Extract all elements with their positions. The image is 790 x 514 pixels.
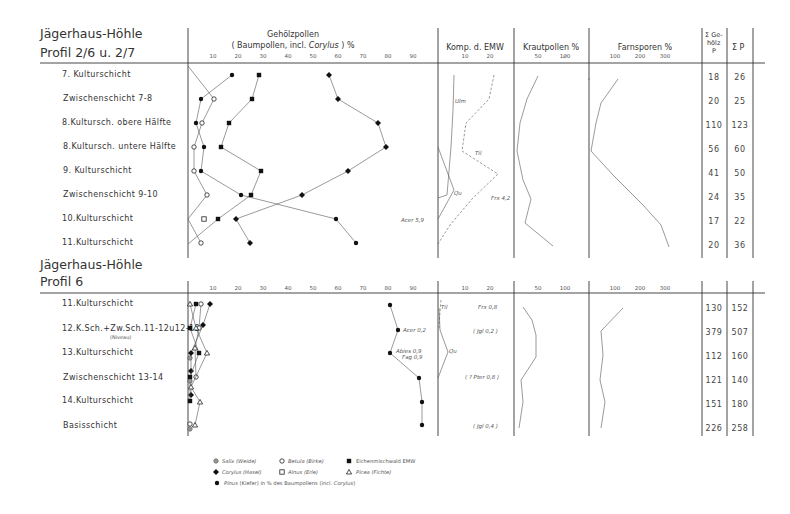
svg-text:41: 41 bbox=[708, 169, 719, 178]
section2-geholz-curves: Acer 0,2 Abies 0,9 Fag 0,9 bbox=[187, 301, 426, 431]
svg-text:200: 200 bbox=[635, 53, 646, 59]
svg-text:Eichenmischwald EMW: Eichenmischwald EMW bbox=[356, 458, 415, 464]
svg-text:10: 10 bbox=[462, 285, 469, 291]
sum-geholz-header-1: Σ Ge- bbox=[705, 31, 723, 39]
svg-text:26: 26 bbox=[734, 73, 745, 82]
svg-text:90: 90 bbox=[410, 53, 417, 59]
svg-text:Til: Til bbox=[475, 150, 482, 156]
section2-title-line2: Profil 6 bbox=[40, 274, 83, 289]
svg-text:Ulm: Ulm bbox=[455, 98, 466, 104]
svg-text:( Jgl 0,2 ): ( Jgl 0,2 ) bbox=[473, 328, 498, 335]
svg-text:20: 20 bbox=[487, 53, 494, 59]
svg-text:20: 20 bbox=[235, 285, 242, 291]
sum-p-header: Σ P bbox=[732, 43, 745, 52]
section2-emw-curves: Til Qu Frx 0,8 ( Jgl 0,2 ) ( ? Pter 0,8 … bbox=[438, 300, 499, 430]
svg-text:112: 112 bbox=[705, 352, 722, 361]
svg-text:Til: Til bbox=[441, 304, 448, 310]
svg-text:24: 24 bbox=[708, 193, 719, 202]
geholz-header-line1: Gehölzpollen bbox=[267, 30, 319, 39]
svg-text:Qu: Qu bbox=[454, 190, 462, 196]
sum-geholz-header-2: hölz bbox=[707, 39, 721, 47]
svg-text:36: 36 bbox=[734, 241, 745, 250]
svg-text:60: 60 bbox=[335, 53, 342, 59]
sum-geholz-header-3: P bbox=[712, 47, 716, 55]
svg-text:60: 60 bbox=[734, 145, 745, 154]
kraut-header: Krautpollen % bbox=[523, 43, 580, 52]
svg-text:Alnus (Erle): Alnus (Erle) bbox=[287, 469, 318, 475]
svg-text:Frx 4,2: Frx 4,2 bbox=[491, 195, 511, 201]
svg-text:Zwischenschicht 13-14: Zwischenschicht 13-14 bbox=[63, 373, 164, 382]
svg-text:Zwischenschicht 9-10: Zwischenschicht 9-10 bbox=[63, 190, 158, 199]
farn-ticks-2: 100 200 300 bbox=[610, 285, 671, 291]
svg-text:Salix (Weide): Salix (Weide) bbox=[222, 458, 256, 464]
svg-text:( ? Pter 0,8 ): ( ? Pter 0,8 ) bbox=[465, 374, 499, 380]
geholz-ticks-1: 10 20 30 40 50 60 70 80 90 bbox=[210, 53, 417, 59]
svg-text:152: 152 bbox=[731, 304, 748, 313]
svg-text:90: 90 bbox=[410, 285, 417, 291]
section2-title-line1: Jägerhaus-Höhle bbox=[39, 257, 143, 272]
svg-text:50: 50 bbox=[310, 285, 317, 291]
svg-text:70: 70 bbox=[360, 53, 367, 59]
section1-emw-curves: Ulm Til Qu Frx 4,2 bbox=[438, 75, 511, 244]
svg-text:Frx 0,8: Frx 0,8 bbox=[478, 304, 498, 310]
pollen-diagram: Jägerhaus-Höhle Profil 2/6 u. 2/7 Gehölz… bbox=[0, 0, 790, 514]
svg-text:Zwischenschicht 7-8: Zwischenschicht 7-8 bbox=[63, 94, 153, 103]
svg-text:8.Kultursch. untere Hälfte: 8.Kultursch. untere Hälfte bbox=[63, 142, 176, 151]
svg-text:40: 40 bbox=[285, 53, 292, 59]
geholz-ticks-2: 10 20 30 40 50 60 70 80 90 bbox=[210, 285, 417, 291]
svg-text:13.Kulturschicht: 13.Kulturschicht bbox=[62, 348, 133, 357]
svg-text:80: 80 bbox=[385, 285, 392, 291]
svg-text:180: 180 bbox=[731, 400, 748, 409]
svg-text:22: 22 bbox=[734, 217, 745, 226]
svg-text:160: 160 bbox=[731, 352, 748, 361]
section1-title-line1: Jägerhaus-Höhle bbox=[39, 26, 143, 41]
section1-title-line2: Profil 2/6 u. 2/7 bbox=[40, 45, 135, 60]
svg-text:50: 50 bbox=[734, 169, 745, 178]
svg-text:20: 20 bbox=[235, 53, 242, 59]
svg-text:Qu: Qu bbox=[449, 348, 457, 354]
section1-layer-labels: 7. Kulturschicht Zwischenschicht 7-8 8.K… bbox=[62, 70, 176, 247]
svg-text:Pinus (Kiefer) in % des Baumpo: Pinus (Kiefer) in % des Baumpollens (inc… bbox=[224, 480, 355, 487]
svg-text:20: 20 bbox=[708, 97, 719, 106]
svg-text:(Niveau): (Niveau) bbox=[110, 334, 131, 340]
svg-text:80: 80 bbox=[385, 53, 392, 59]
emw-header: Komp. d. EMW bbox=[446, 43, 504, 52]
svg-text:20: 20 bbox=[487, 285, 494, 291]
svg-text:100: 100 bbox=[610, 53, 621, 59]
svg-text:Fag 0,9: Fag 0,9 bbox=[402, 354, 423, 361]
svg-text:30: 30 bbox=[260, 285, 267, 291]
section2-kraut-curve bbox=[519, 307, 536, 428]
svg-text:10: 10 bbox=[210, 285, 217, 291]
kraut-ticks-2: 50 100 bbox=[535, 285, 571, 291]
svg-text:300: 300 bbox=[660, 53, 671, 59]
svg-text:10: 10 bbox=[462, 53, 469, 59]
svg-text:Betula (Birke): Betula (Birke) bbox=[288, 458, 324, 464]
emw-ticks-1: 10 20 bbox=[462, 53, 494, 59]
svg-text:100: 100 bbox=[560, 53, 571, 59]
svg-text:Corylus (Hasel): Corylus (Hasel) bbox=[222, 469, 262, 476]
svg-text:Picea (Fichte): Picea (Fichte) bbox=[356, 469, 391, 475]
section2-layer-labels: 11.Kulturschicht 12.K.Sch.+Zw.Sch.11-12u… bbox=[62, 299, 200, 430]
svg-text:50: 50 bbox=[310, 53, 317, 59]
svg-text:8.Kultursch. obere Hälfte: 8.Kultursch. obere Hälfte bbox=[62, 118, 171, 127]
svg-text:Acer 0,2: Acer 0,2 bbox=[402, 327, 426, 333]
legend: Salix (Weide) Betula (Birke) Eichenmisch… bbox=[213, 458, 415, 487]
section1-kraut-curve bbox=[517, 76, 553, 246]
svg-text:10: 10 bbox=[210, 53, 217, 59]
svg-text:25: 25 bbox=[734, 97, 745, 106]
svg-text:20: 20 bbox=[708, 241, 719, 250]
svg-text:123: 123 bbox=[731, 121, 748, 130]
svg-text:7. Kulturschicht: 7. Kulturschicht bbox=[62, 70, 131, 79]
svg-text:( Jgl 0,4 ): ( Jgl 0,4 ) bbox=[473, 423, 498, 430]
svg-text:130: 130 bbox=[705, 304, 722, 313]
svg-text:110: 110 bbox=[705, 121, 722, 130]
section2-farn-curve bbox=[600, 308, 623, 428]
svg-text:100: 100 bbox=[560, 285, 571, 291]
svg-text:Basisschicht: Basisschicht bbox=[63, 421, 117, 430]
section1-farn-curve bbox=[591, 79, 669, 247]
svg-text:40: 40 bbox=[285, 285, 292, 291]
svg-text:14.Kulturschicht: 14.Kulturschicht bbox=[62, 396, 133, 405]
svg-text:50: 50 bbox=[535, 53, 542, 59]
geholz-header-line2: ( Baumpollen, incl. Corylus ) % bbox=[231, 41, 355, 50]
svg-text:60: 60 bbox=[335, 285, 342, 291]
